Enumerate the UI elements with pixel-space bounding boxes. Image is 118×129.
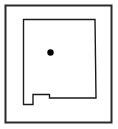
map-svg-canvas bbox=[0, 0, 118, 129]
location-dot bbox=[47, 49, 53, 55]
state-locator-map bbox=[0, 0, 118, 129]
new-mexico-outline bbox=[24, 20, 97, 105]
